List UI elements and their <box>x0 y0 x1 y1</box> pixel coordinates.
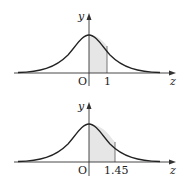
diagram-bottom: y z O 1.45 <box>14 100 176 177</box>
y-axis-arrow-bottom <box>87 102 92 109</box>
x-axis-label-bottom: z <box>169 164 176 177</box>
x-axis-label-top: z <box>169 75 176 88</box>
tick-label-bottom: 1.45 <box>104 164 129 177</box>
diagram-top: y z O 1 <box>14 10 176 88</box>
origin-label-top: O <box>78 75 87 88</box>
shaded-area-bottom <box>89 124 115 162</box>
normal-distribution-diagrams: y z O 1 y z O 1.45 <box>0 0 186 178</box>
origin-label-bottom: O <box>78 164 87 177</box>
tick-label-top: 1 <box>104 75 111 88</box>
y-axis-label-top: y <box>77 10 85 23</box>
y-axis-arrow-top <box>87 13 92 20</box>
y-axis-label-bottom: y <box>77 100 85 113</box>
